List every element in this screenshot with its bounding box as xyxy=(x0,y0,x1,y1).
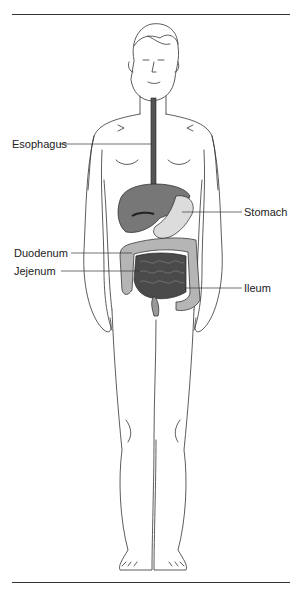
esophagus-label: Esophagus xyxy=(12,138,67,150)
left-leg xyxy=(112,310,156,570)
mouth xyxy=(148,82,160,84)
left-arm xyxy=(84,136,112,332)
ileum-label: Ileum xyxy=(244,282,271,294)
human-body-digestive-diagram xyxy=(0,0,302,591)
stomach-label: Stomach xyxy=(244,206,287,218)
right-leg xyxy=(154,310,194,570)
esophagus-organ xyxy=(151,98,156,194)
head-outline xyxy=(131,24,179,101)
bottom-rule xyxy=(12,582,290,583)
hair xyxy=(134,35,178,46)
duodenum-label: Duodenum xyxy=(14,247,68,259)
toes xyxy=(122,562,184,566)
knees xyxy=(126,420,180,442)
small-intestine-organ xyxy=(134,253,186,299)
nose xyxy=(152,62,156,72)
jejenum-label: Jejenum xyxy=(14,265,56,277)
